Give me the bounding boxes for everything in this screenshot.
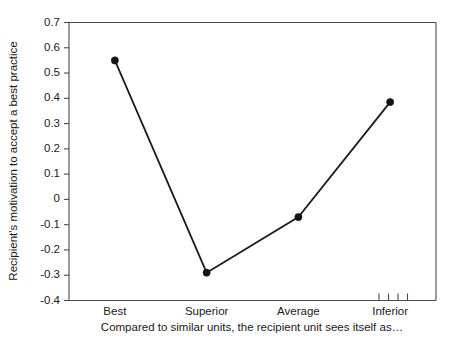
y-axis-tick-label: 0 — [54, 192, 60, 204]
y-axis-tick-label: 0.6 — [44, 41, 60, 53]
data-point-marker — [295, 214, 302, 221]
y-axis-tick-label: 0.2 — [44, 142, 60, 154]
y-axis-tick-label: -0.2 — [40, 243, 60, 255]
y-axis-tick-label: -0.4 — [40, 294, 60, 306]
x-axis-tick-label: Superior — [185, 305, 229, 317]
y-axis-tick-label: 0.3 — [44, 117, 60, 129]
y-axis-tick-label: 0.5 — [44, 66, 60, 78]
y-axis-tick-label: 0.7 — [44, 16, 60, 28]
series-markers — [111, 57, 393, 276]
x-axis-minor-ticks — [379, 294, 408, 301]
x-axis-tick-label: Inferior — [372, 305, 408, 317]
line-chart: 0.70.60.50.40.30.20.10-0.1-0.2-0.3-0.4 B… — [0, 0, 453, 346]
plot-frame — [69, 23, 436, 301]
data-point-marker — [111, 57, 118, 64]
chart-canvas: 0.70.60.50.40.30.20.10-0.1-0.2-0.3-0.4 B… — [0, 0, 453, 346]
y-axis-title: Recipient's motivation to accept a best … — [7, 41, 19, 280]
data-point-marker — [203, 269, 210, 276]
series-line — [115, 60, 390, 272]
data-point-marker — [387, 99, 394, 106]
y-axis-tick-label: 0.1 — [44, 167, 60, 179]
y-axis-tick-label: -0.3 — [40, 268, 60, 280]
y-axis-tick-label: -0.1 — [40, 218, 60, 230]
x-axis-tick-labels: BestSuperiorAverageInferior — [103, 305, 408, 317]
x-axis-tick-label: Average — [277, 305, 320, 317]
x-axis-tick-label: Best — [103, 305, 127, 317]
y-axis-tick-label: 0.4 — [44, 91, 61, 103]
x-axis-title: Compared to similar units, the recipient… — [101, 321, 403, 333]
y-axis-ticks: 0.70.60.50.40.30.20.10-0.1-0.2-0.3-0.4 — [40, 16, 69, 306]
